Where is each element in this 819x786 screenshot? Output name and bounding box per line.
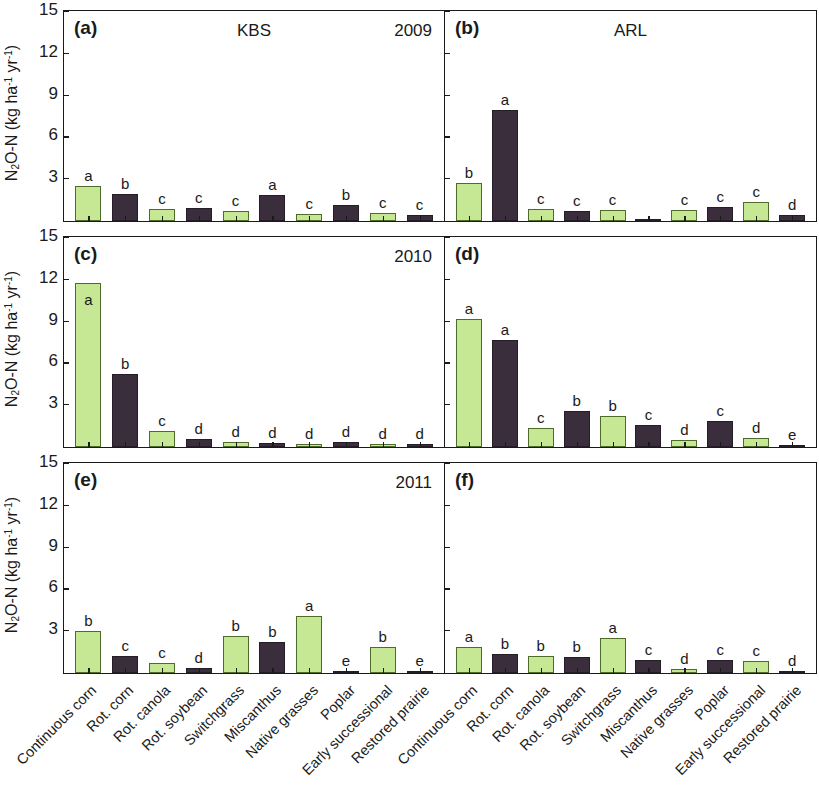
significance-letter: b [573,393,581,408]
bar-early-successional[interactable]: c [370,213,396,221]
significance-letter: c [158,645,166,660]
chart-panel-a: (a)KBS2009abcccacbcc [63,10,445,222]
bar-rot-soybean[interactable]: d [186,668,212,673]
bar-restored-prairie[interactable]: d [407,444,433,447]
significance-letter: c [537,191,545,206]
bar-continuous-corn[interactable]: a [456,319,482,447]
bar-early-successional[interactable]: b [370,647,396,673]
bar-restored-prairie[interactable]: d [779,671,805,673]
bar-restored-prairie[interactable]: e [407,671,433,673]
bar-slot: d [217,237,254,447]
bar-miscanthus[interactable]: c [635,660,661,673]
bar-slot: d [738,237,774,447]
bar-rot-corn[interactable]: b [112,194,138,221]
significance-letter: b [379,629,387,644]
bar-restored-prairie[interactable]: c [407,215,433,221]
bar-poplar[interactable]: c [707,421,733,447]
bar-early-successional[interactable]: d [743,438,769,447]
significance-letter: d [788,197,796,212]
bar-switchgrass[interactable]: c [600,210,626,221]
bar-slot: c [631,463,667,673]
bar-miscanthus[interactable]: a [259,195,285,221]
bar-group: bccdbbaebe [70,463,438,673]
bar-switchgrass[interactable]: b [223,636,249,673]
bar-rot-canola[interactable]: c [149,663,175,673]
y-axis-tick-label: 15 [26,1,58,18]
bar-rot-soybean[interactable]: c [186,208,212,221]
bar-native-grasses[interactable]: d [671,440,697,447]
bar-group: abbbacdccd [451,463,810,673]
bar-continuous-corn[interactable]: a [75,186,101,221]
significance-letter: c [609,192,617,207]
significance-letter: c [717,642,725,657]
bar-rot-soybean[interactable]: c [564,211,590,221]
bar-switchgrass[interactable]: c [223,211,249,221]
bar-slot: b [254,463,291,673]
bar-rot-soybean[interactable]: d [186,439,212,447]
significance-letter: c [717,189,725,204]
bar-rot-corn[interactable]: b [112,374,138,447]
bar-rot-corn[interactable]: b [492,654,518,673]
bar-miscanthus[interactable]: b [259,642,285,673]
bar-rot-soybean[interactable]: b [564,411,590,447]
bar-rot-corn[interactable]: a [492,340,518,447]
significance-letter: c [645,642,653,657]
bar-switchgrass[interactable]: d [223,442,249,447]
bar-poplar[interactable]: b [333,205,359,221]
bar-switchgrass[interactable]: b [600,416,626,447]
bar-slot: c [107,463,144,673]
significance-letter: c [681,192,689,207]
y-axis-label: N2O-N (kg ha-1 yr-1) [0,0,26,226]
bar-rot-canola[interactable]: c [528,209,554,221]
bar-group: abcccacbcc [70,11,438,221]
significance-letter: c [158,191,166,206]
bar-native-grasses[interactable]: c [296,214,322,221]
bar-native-grasses[interactable]: d [296,444,322,447]
significance-letter: b [84,613,92,628]
bar-rot-soybean[interactable]: b [564,657,590,673]
bar-continuous-corn[interactable]: a [456,647,482,673]
bar-slot: d [401,237,438,447]
bar-rot-corn[interactable]: a [492,110,518,221]
significance-letter: a [465,301,473,316]
bar-continuous-corn[interactable]: a [75,283,101,447]
significance-letter: c [717,403,725,418]
bar-slot: c [631,237,667,447]
bar-poplar[interactable]: c [707,660,733,673]
bar-miscanthus[interactable]: d [259,443,285,447]
bar-poplar[interactable]: d [333,442,359,447]
bar-early-successional[interactable]: c [743,661,769,673]
bar-restored-prairie[interactable]: d [779,215,805,221]
bar-rot-canola[interactable]: b [528,656,554,673]
bar-continuous-corn[interactable]: b [456,183,482,221]
significance-letter: c [305,196,313,211]
bar-poplar[interactable]: e [333,671,359,673]
bar-early-successional[interactable]: c [743,202,769,221]
significance-letter: c [232,193,240,208]
bar-native-grasses[interactable]: d [671,669,697,673]
bar-rot-canola[interactable]: c [149,209,175,221]
bar-slot: c [364,11,401,221]
bar-slot [631,11,667,221]
bar-slot: e [328,463,365,673]
bar-rot-canola[interactable]: c [528,428,554,448]
significance-letter: d [231,424,239,439]
significance-letter: c [752,643,760,658]
bar-native-grasses[interactable]: a [296,616,322,673]
bar-restored-prairie[interactable]: e [779,445,805,447]
significance-letter: d [415,426,423,441]
bar-rot-canola[interactable]: c [149,431,175,447]
significance-letter: d [379,426,387,441]
bar-poplar[interactable]: c [707,207,733,221]
bar-slot: c [523,11,559,221]
bar-miscanthus[interactable] [635,219,661,221]
bar-miscanthus[interactable]: c [635,425,661,447]
bar-rot-corn[interactable]: c [112,656,138,673]
significance-letter: c [158,413,166,428]
bar-continuous-corn[interactable]: b [75,631,101,673]
bar-slot: c [702,463,738,673]
bar-early-successional[interactable]: d [370,444,396,447]
bar-native-grasses[interactable]: c [671,210,697,221]
bar-switchgrass[interactable]: a [600,638,626,673]
bar-slot: a [70,11,107,221]
